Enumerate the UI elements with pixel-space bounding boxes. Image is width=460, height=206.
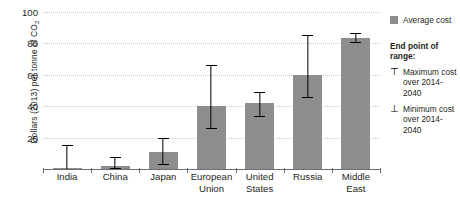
y-axis-tick-label: 100	[22, 7, 38, 18]
x-axis-label: UnitedStates	[236, 171, 284, 194]
bar-series	[43, 12, 380, 169]
bar-group[interactable]	[43, 12, 91, 169]
legend-swatch-icon	[390, 16, 398, 24]
x-axis-label-line: Middle	[342, 171, 370, 182]
bar-group[interactable]	[284, 12, 332, 169]
x-axis-label: EuropeanUnion	[187, 171, 235, 194]
error-bar-max-cap	[350, 33, 361, 34]
y-axis-tick-label: 20	[27, 132, 38, 143]
error-bar	[66, 145, 67, 169]
error-bar-min-cap	[206, 128, 217, 129]
legend-maximum-line2: over 2014-2040	[403, 77, 443, 98]
error-bar-min-cap	[158, 164, 169, 165]
error-bar-min-cap	[254, 116, 265, 117]
x-axis-label-line: United	[246, 171, 274, 182]
y-axis-tick-label: 40	[27, 101, 38, 112]
x-axis-label-line: East	[346, 183, 365, 194]
legend-maximum-line1: Maximum cost	[403, 67, 456, 77]
error-bar	[355, 33, 356, 42]
error-bar	[115, 157, 116, 168]
x-axis-label: MiddleEast	[332, 171, 380, 194]
bar-group[interactable]	[187, 12, 235, 169]
bar-group[interactable]	[236, 12, 284, 169]
x-axis-label-line: European	[191, 171, 233, 182]
legend-maximum-label: Maximum costover 2014-2040	[403, 67, 460, 99]
error-bar-max-cap	[158, 138, 169, 139]
legend-minimum-label: Minimum costover 2014-2040	[403, 104, 460, 136]
error-bar	[211, 65, 212, 128]
x-axis-label-line: Russia	[293, 171, 322, 182]
error-bar	[259, 92, 260, 116]
bar-group[interactable]	[91, 12, 139, 169]
x-axis-line	[43, 169, 380, 170]
error-bar-max-cap	[254, 92, 265, 93]
x-axis-labels: IndiaChinaJapanEuropeanUnionUnitedStates…	[43, 171, 380, 203]
bar-group[interactable]	[332, 12, 380, 169]
error-bar-max-cap	[62, 145, 73, 146]
legend-row-average: Average cost	[390, 15, 460, 26]
error-bar-max-cap	[110, 157, 121, 158]
error-bar-min-cap	[302, 97, 313, 98]
bar[interactable]	[341, 38, 370, 169]
error-bar-max-cap	[302, 35, 313, 36]
legend-minimum-line2: over 2014-2040	[403, 114, 443, 135]
x-axis-label: Japan	[139, 171, 187, 183]
legend-range-heading: End point of range:	[390, 41, 460, 62]
x-axis-label-line: China	[103, 171, 128, 182]
error-bar-min-cap	[350, 42, 361, 43]
error-bar	[163, 138, 164, 164]
legend-average-label: Average cost	[403, 15, 451, 26]
x-axis-label-line: Japan	[150, 171, 176, 182]
bar-group[interactable]	[139, 12, 187, 169]
x-axis-label: Russia	[284, 171, 332, 183]
y-axis-tick-label: 80	[27, 38, 38, 49]
max-cap-icon: ⊤	[390, 67, 398, 77]
plot-area: 20406080100	[43, 12, 380, 169]
x-axis-label-line: States	[246, 183, 273, 194]
legend-row-minimum: ⊥ Minimum costover 2014-2040	[390, 104, 460, 136]
legend-row-maximum: ⊤ Maximum costover 2014-2040	[390, 67, 460, 99]
x-axis-label-line: Union	[199, 183, 224, 194]
chart-legend: Average cost End point of range: ⊤ Maxim…	[390, 15, 460, 140]
x-axis-label-line: India	[57, 171, 78, 182]
y-axis-tick-label: 60	[27, 69, 38, 80]
min-cap-icon: ⊥	[390, 104, 398, 114]
bar-chart-figure: Dollars (2013) per tonne of CO2 20406080…	[0, 0, 460, 206]
x-axis-label: China	[91, 171, 139, 183]
legend-minimum-line1: Minimum cost	[403, 104, 454, 114]
x-axis-label: India	[43, 171, 91, 183]
y-axis-title-subscript: 2	[33, 20, 40, 24]
error-bar-max-cap	[206, 65, 217, 66]
error-bar	[307, 35, 308, 97]
x-axis-tick	[380, 168, 381, 173]
